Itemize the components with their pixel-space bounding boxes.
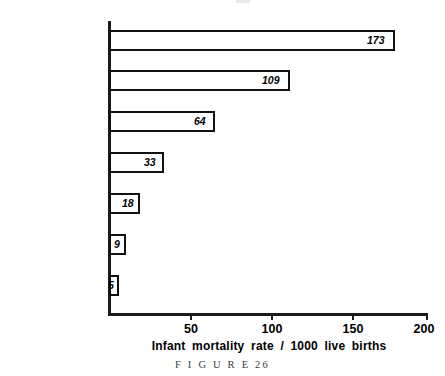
bar-value-india-rural-bihar: 109 — [262, 73, 280, 87]
bar-value-afghanistan: 173 — [367, 33, 385, 47]
figure-26: Afghanistan 173 India, rural Bihar 109 B… — [0, 0, 445, 376]
x-axis-title: Infant mortality rate / 1000 live births — [108, 339, 430, 354]
x-tick-mark-150 — [352, 313, 354, 320]
x-tick-label-200: 200 — [402, 322, 445, 337]
bar-chart-plot-area: Afghanistan 173 India, rural Bihar 109 B… — [0, 0, 445, 320]
x-tick-label-50: 50 — [169, 322, 213, 337]
bar-afghanistan — [109, 30, 395, 51]
bar-value-japan: 5 — [108, 278, 114, 292]
x-tick-mark-200 — [426, 313, 428, 320]
x-tick-mark-50 — [190, 313, 192, 320]
bar-value-usa-white: 9 — [114, 237, 120, 251]
x-axis-line — [108, 313, 428, 316]
x-tick-mark-100 — [271, 313, 273, 320]
x-tick-label-100: 100 — [250, 322, 294, 337]
bar-value-china: 33 — [144, 155, 156, 169]
bar-value-usa-black: 18 — [122, 196, 134, 210]
x-tick-label-150: 150 — [331, 322, 375, 337]
figure-caption: F I G U R E 26 — [0, 358, 445, 371]
bar-value-brazil: 64 — [194, 114, 206, 128]
